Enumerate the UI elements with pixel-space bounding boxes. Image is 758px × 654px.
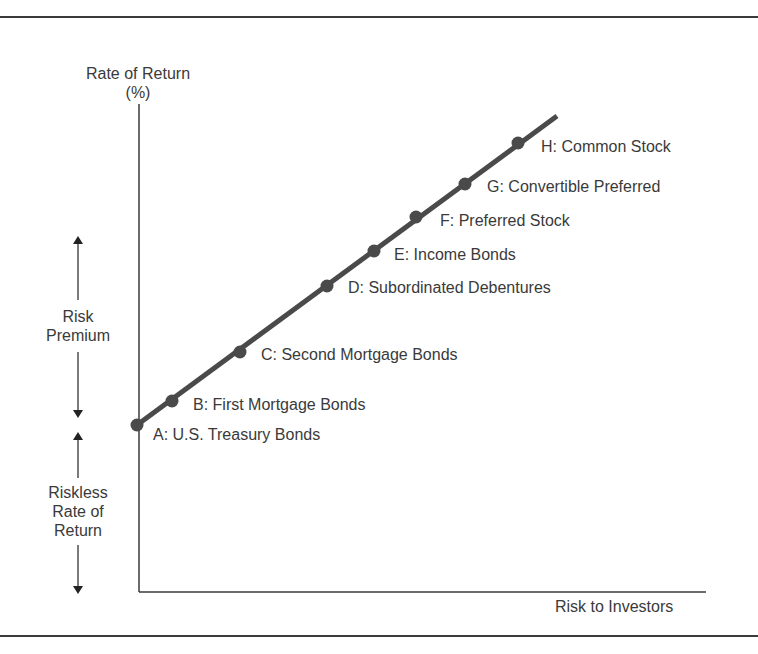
risk-premium-line1: Risk bbox=[28, 307, 128, 326]
point-label-b: B: First Mortgage Bonds bbox=[193, 395, 366, 414]
security-market-line bbox=[137, 116, 557, 425]
risk-premium-line2: Premium bbox=[28, 326, 128, 345]
riskless-rate-label: Riskless Rate of Return bbox=[28, 483, 128, 540]
point-label-h: H: Common Stock bbox=[541, 137, 671, 156]
risk-premium-label: Risk Premium bbox=[28, 307, 128, 345]
y-axis-label-line1: Rate of Return bbox=[58, 64, 218, 83]
point-label-d: D: Subordinated Debentures bbox=[348, 278, 551, 297]
riskless-line1: Riskless bbox=[28, 483, 128, 502]
point-label-f: F: Preferred Stock bbox=[440, 211, 570, 230]
point-label-c: C: Second Mortgage Bonds bbox=[261, 345, 458, 364]
point-label-e: E: Income Bonds bbox=[394, 245, 516, 264]
point-label-a: A: U.S. Treasury Bonds bbox=[153, 425, 320, 444]
y-axis-label-line2: (%) bbox=[58, 83, 218, 102]
x-axis-label: Risk to Investors bbox=[555, 597, 673, 616]
y-axis-label: Rate of Return (%) bbox=[58, 64, 218, 102]
riskless-line2: Rate of bbox=[28, 502, 128, 521]
point-label-g: G: Convertible Preferred bbox=[487, 177, 660, 196]
riskless-line3: Return bbox=[28, 521, 128, 540]
